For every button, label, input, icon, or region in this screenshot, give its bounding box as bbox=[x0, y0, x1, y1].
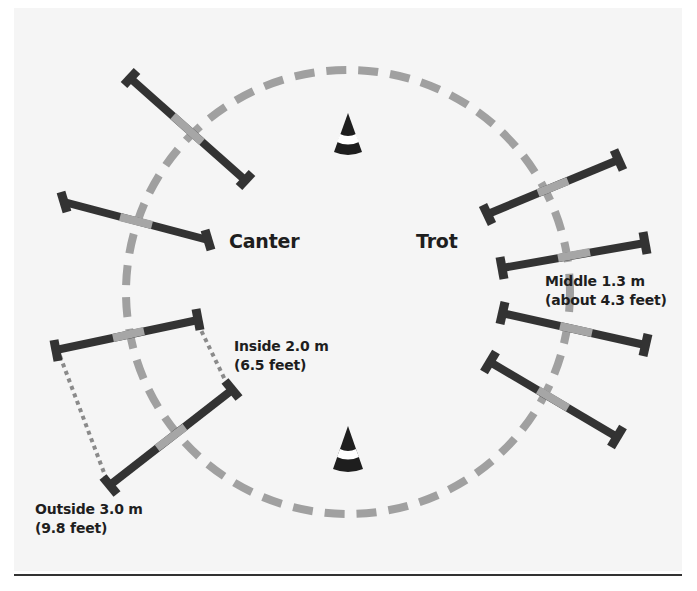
inside-distance-marker bbox=[198, 324, 228, 386]
inside-distance-line2: (6.5 feet) bbox=[234, 356, 329, 375]
inside-distance-label: Inside 2.0 m (6.5 feet) bbox=[234, 337, 329, 375]
middle-distance-label: Middle 1.3 m (about 4.3 feet) bbox=[545, 272, 667, 310]
bottom-rule bbox=[14, 574, 682, 576]
outside-distance-marker bbox=[60, 356, 106, 478]
canter-label: Canter bbox=[229, 230, 299, 252]
top-cone-icon bbox=[334, 113, 362, 155]
trot-label: Trot bbox=[416, 230, 458, 252]
outside-distance-line1: Outside 3.0 m bbox=[35, 500, 143, 519]
bottom-cone-icon bbox=[333, 426, 363, 472]
trot-pole-3 bbox=[500, 302, 648, 356]
inside-distance-line1: Inside 2.0 m bbox=[234, 337, 329, 356]
canter-pole-1 bbox=[124, 71, 252, 187]
middle-distance-line1: Middle 1.3 m bbox=[545, 272, 667, 291]
outside-distance-line2: (9.8 feet) bbox=[35, 519, 143, 538]
outside-distance-label: Outside 3.0 m (9.8 feet) bbox=[35, 500, 143, 538]
middle-distance-line2: (about 4.3 feet) bbox=[545, 291, 667, 310]
canter-pole-2 bbox=[61, 192, 211, 250]
